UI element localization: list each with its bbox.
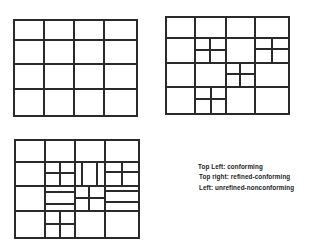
legend-top-right: Top right: refined-conforming: [199, 173, 313, 184]
conforming-mesh-grid: [14, 20, 137, 116]
unrefined-nonconforming-mesh: [15, 140, 139, 238]
refined-conforming-mesh: [166, 17, 289, 114]
legend-top-left: Top Left: conforming: [198, 163, 313, 173]
legend: Top Left: conforming Top right: refined-…: [198, 163, 313, 191]
legend-left: Left: unrefined-nonconforming: [199, 184, 313, 191]
conforming-mesh: [0, 0, 317, 252]
